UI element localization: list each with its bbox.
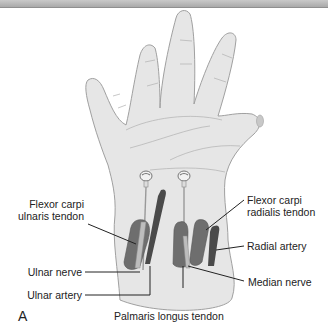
label-flexor-carpi-radialis: Flexor carpi radialis tendon	[247, 194, 315, 218]
label-ulnar-artery: Ulnar artery	[10, 289, 82, 301]
label-line: ulnaris tendon	[10, 210, 84, 222]
label-line: radialis tendon	[247, 206, 315, 218]
thumbnail	[257, 115, 264, 127]
label-line: Flexor carpi	[10, 198, 84, 210]
label-ulnar-nerve: Ulnar nerve	[10, 266, 82, 278]
label-palmaris-longus: Palmaris longus tendon	[114, 310, 224, 322]
label-median-nerve: Median nerve	[248, 276, 312, 288]
panel-letter: A	[18, 308, 27, 324]
label-radial-artery: Radial artery	[247, 240, 307, 252]
hand-outline	[86, 11, 260, 311]
label-line: Flexor carpi	[247, 194, 315, 206]
label-flexor-carpi-ulnaris: Flexor carpi ulnaris tendon	[10, 198, 84, 222]
